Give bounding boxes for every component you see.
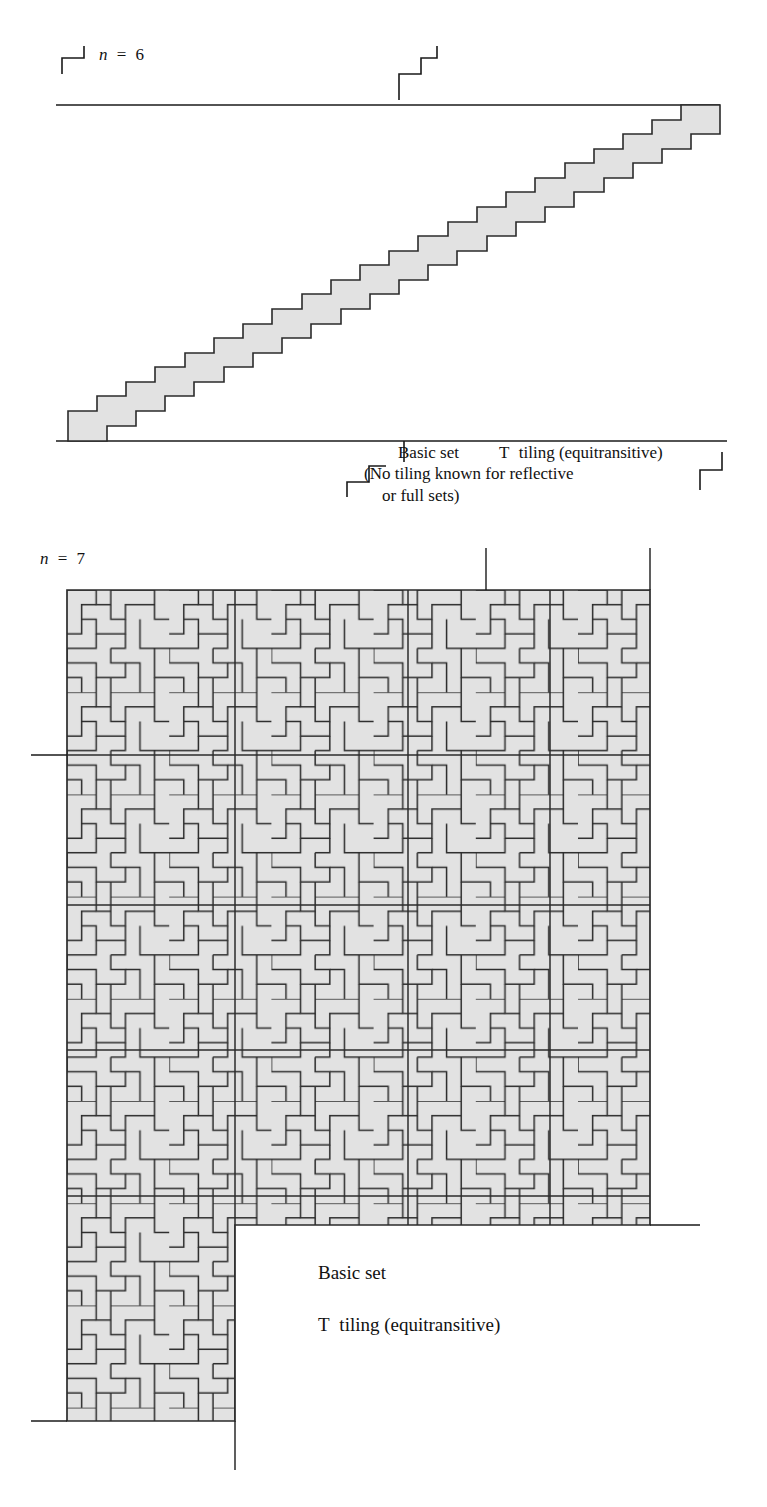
n7-symbol-n: n bbox=[40, 549, 49, 568]
n7-caption-rest: tiling (equitransitive) bbox=[339, 1314, 500, 1335]
figure-n7-order-label: n = 7 bbox=[40, 548, 90, 569]
n6-caption-rest: tiling (equitransitive) bbox=[519, 443, 663, 462]
n6-symbol-n: n bbox=[99, 45, 108, 64]
figure-n6-caption: Basic set T tiling (equitransitive) bbox=[398, 443, 668, 463]
corner-mark-caption-right-icon bbox=[700, 452, 722, 490]
figure-n6: n = 6 Basic set T tiling (equitransitive… bbox=[0, 0, 767, 520]
n6-symbol-value: 6 bbox=[136, 45, 145, 64]
figure-n7-caption-basic-set: Basic set bbox=[318, 1262, 386, 1284]
staircase-mark-top-left-icon bbox=[62, 46, 84, 74]
figure-n6-svg bbox=[0, 0, 767, 520]
n7-symbol-eq: = bbox=[58, 549, 68, 568]
figure-n6-order-label: n = 6 bbox=[99, 44, 149, 65]
n7-caption-T: T bbox=[318, 1314, 330, 1335]
n7-symbol-value: 7 bbox=[77, 549, 86, 568]
n6-caption-basic-set: Basic set bbox=[398, 443, 459, 462]
figure-n7-caption-tiling: T tiling (equitransitive) bbox=[318, 1314, 505, 1336]
n6-symbol-eq: = bbox=[117, 45, 127, 64]
n7-region-outline bbox=[67, 590, 650, 1421]
n6-caption-T: T bbox=[499, 443, 509, 462]
staircase-mark-top-middle-icon bbox=[399, 46, 437, 100]
n6-region-outline bbox=[68, 105, 720, 441]
figure-n6-note-line1: (No tiling known for reflective bbox=[364, 464, 574, 484]
n7-tiling-body bbox=[60, 583, 660, 1433]
figure-n6-note-line2: or full sets) bbox=[382, 486, 459, 506]
